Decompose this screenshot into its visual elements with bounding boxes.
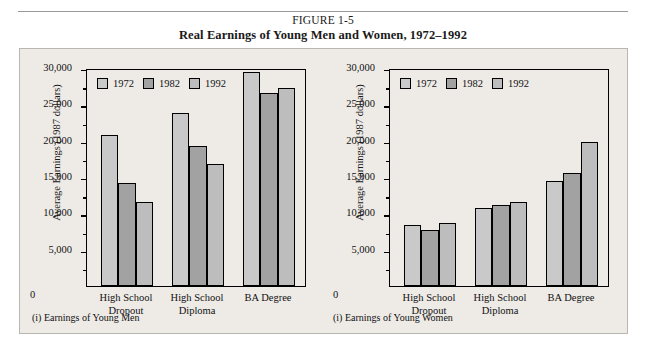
bar [172, 113, 189, 286]
x-axis-group-label-line1: High School [474, 292, 527, 303]
title-divider-rule [18, 11, 628, 12]
y-axis-tick-label: 15,000 [16, 171, 72, 182]
chart-young-women: Average Earnings (1987 dollars) 0 30,000… [323, 49, 627, 335]
bar [278, 88, 295, 286]
bars-layer [87, 70, 305, 286]
bar [421, 230, 438, 286]
y-axis-tick-label: 5,000 [319, 244, 375, 255]
x-axis-group-label: High SchoolDiploma [161, 291, 233, 317]
bar [439, 223, 456, 286]
bar [101, 135, 118, 286]
y-axis-tick-label: 25,000 [16, 98, 72, 109]
x-axis-group-label-line1: BA Degree [245, 292, 292, 303]
y-axis-tick-label: 20,000 [319, 135, 375, 146]
y-axis-tick-label: 15,000 [319, 171, 375, 182]
bar [475, 208, 492, 286]
bar [492, 205, 509, 286]
figure-container: FIGURE 1-5 Real Earnings of Young Men an… [0, 0, 645, 359]
figure-number: FIGURE 1-5 [18, 13, 628, 27]
chart-subcaption: (i) Earnings of Young Women [333, 312, 453, 323]
bar [546, 181, 563, 286]
y-axis-tick-label: 25,000 [319, 98, 375, 109]
bar [207, 164, 224, 286]
figure-title: Real Earnings of Young Men and Women, 19… [18, 27, 628, 43]
bar [118, 183, 135, 286]
y-axis-tick-label: 10,000 [319, 207, 375, 218]
x-axis-group-label: High SchoolDiploma [464, 291, 536, 317]
x-axis-group-label-line2: Diploma [161, 304, 233, 317]
x-axis-group-label-line1: High School [403, 292, 456, 303]
y-axis-tick-label: 30,000 [319, 62, 375, 73]
y-axis-tick-label: 30,000 [16, 62, 72, 73]
bar [243, 72, 260, 286]
y-axis-tick-label: 10,000 [16, 207, 72, 218]
bar [581, 142, 598, 286]
x-axis-group-label-line2: Diploma [464, 304, 536, 317]
x-axis-group-label: BA Degree [232, 291, 304, 304]
bar [260, 93, 277, 286]
chart-young-men: Average Earnings (1987 dollars) 0 30,000… [20, 49, 324, 335]
y-axis-zero-label: 0 [333, 289, 338, 300]
bar [189, 146, 206, 286]
x-axis-group-label: BA Degree [535, 291, 607, 304]
x-axis-group-label-line1: BA Degree [548, 292, 595, 303]
bar [510, 202, 527, 286]
x-axis-group-label-line1: High School [171, 292, 224, 303]
y-axis-tick-label: 20,000 [16, 135, 72, 146]
plot-area: 30,00025,00020,00015,00010,0005,000 1972… [86, 69, 306, 287]
figure-title-block: FIGURE 1-5 Real Earnings of Young Men an… [18, 13, 628, 43]
plot-area: 30,00025,00020,00015,00010,0005,000 1972… [389, 69, 609, 287]
bars-layer [390, 70, 608, 286]
y-axis-zero-label: 0 [30, 289, 35, 300]
bar [404, 225, 421, 286]
y-axis-tick-label: 5,000 [16, 244, 72, 255]
chart-subcaption: (i) Earnings of Young Men [32, 312, 140, 323]
bar [136, 202, 153, 286]
bar [563, 173, 580, 286]
x-axis-group-label-line1: High School [100, 292, 153, 303]
figure-panel: Average Earnings (1987 dollars) 0 30,000… [19, 48, 628, 334]
